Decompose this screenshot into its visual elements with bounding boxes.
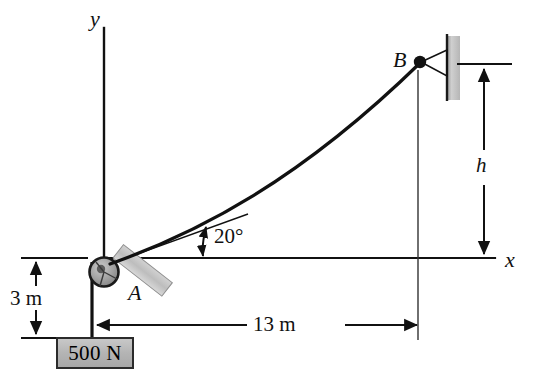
y-axis-label: y [90, 8, 100, 30]
axis-group [104, 28, 495, 258]
weight-block: 500 N [56, 337, 134, 369]
pin-bracket-b [414, 50, 447, 76]
dimension-label-h: h [476, 155, 487, 176]
point-label-a: A [128, 282, 141, 304]
engineering-diagram: y x A B 20° 13 m 3 m h 500 N [0, 0, 537, 383]
angle-label-20deg: 20° [214, 226, 243, 247]
weight-label: 500 N [68, 341, 121, 366]
wall-support-b [447, 34, 460, 101]
dimension-label-3m: 3 m [10, 288, 42, 309]
angle-indicator-20 [203, 227, 206, 256]
point-label-b: B [393, 49, 406, 71]
x-axis-label: x [505, 249, 515, 271]
cable-curve [110, 63, 420, 264]
dimension-label-13m: 13 m [253, 314, 296, 335]
